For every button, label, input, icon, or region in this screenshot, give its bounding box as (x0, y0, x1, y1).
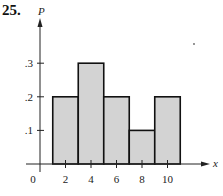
stray-dot (193, 43, 195, 45)
y-tick-label: .1 (25, 124, 33, 136)
x-tick-label: 0 (30, 173, 36, 185)
x-tick-label: 10 (162, 173, 174, 185)
histogram-chart: P x .1.2.3 0246810 (0, 0, 223, 196)
y-ticks: .1.2.3 (25, 57, 44, 136)
x-tick-label: 4 (88, 173, 94, 185)
x-tick-label: 6 (114, 173, 120, 185)
y-tick-label: .2 (25, 91, 33, 103)
x-axis-label: x (212, 157, 218, 169)
histogram-bar (129, 130, 155, 164)
y-axis-arrow-icon (38, 18, 43, 27)
x-tick-label: 8 (139, 173, 145, 185)
histogram-bar (53, 97, 79, 164)
histogram-bars (53, 63, 181, 164)
y-tick-label: .3 (25, 57, 34, 69)
histogram-bar (78, 63, 104, 164)
x-tick-label: 2 (63, 173, 69, 185)
histogram-bar (155, 97, 181, 164)
x-axis-arrow-icon (201, 162, 210, 167)
histogram-bar (104, 97, 130, 164)
y-axis-label: P (37, 5, 45, 17)
